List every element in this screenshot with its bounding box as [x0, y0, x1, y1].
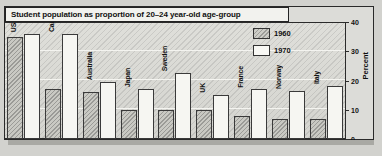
- y-tick-label: 40: [351, 19, 359, 26]
- y-tick-label: 10: [351, 106, 359, 113]
- bar-group: UK: [194, 22, 232, 139]
- legend-label-1970: 1970: [274, 46, 291, 55]
- bar: [272, 119, 288, 139]
- chart-figure: Student population as proportion of 20–2…: [0, 0, 382, 156]
- bar: [327, 86, 343, 139]
- y-axis: 010203040 Percent: [345, 22, 374, 140]
- bar: [213, 95, 229, 139]
- bar: [62, 34, 78, 139]
- chart-title-box: Student population as proportion of 20–2…: [5, 7, 289, 22]
- y-tick-label: 30: [351, 48, 359, 55]
- bar-category-label: Sweden: [161, 46, 168, 71]
- chart-title: Student population as proportion of 20–2…: [11, 10, 241, 19]
- bar-category-label: France: [237, 66, 244, 88]
- y-tick-mark: [345, 110, 349, 111]
- bar-group: USA: [5, 22, 43, 139]
- legend-swatch-1970-icon: [253, 45, 270, 56]
- bar: [138, 89, 154, 139]
- bar-group: Sweden: [156, 22, 194, 139]
- chart-legend: 1960 1970: [253, 27, 291, 61]
- bar-group: Japan: [118, 22, 156, 139]
- legend-label-1960: 1960: [274, 29, 291, 38]
- bar-category-label: Norway: [275, 65, 282, 89]
- bar-category-label: USA: [10, 22, 17, 32]
- figure-shadow: [8, 140, 374, 145]
- bar-category-label: UK: [199, 83, 206, 93]
- bar: [158, 110, 174, 139]
- bar: [24, 34, 40, 139]
- bar: [175, 73, 191, 139]
- bar-groups: USACanadaAustraliaJapanSwedenUKFranceNor…: [5, 22, 345, 139]
- bar: [289, 91, 305, 139]
- bar: [100, 82, 116, 139]
- y-tick-mark: [345, 81, 349, 82]
- legend-item-1970: 1970: [253, 44, 291, 57]
- bar: [196, 110, 212, 139]
- bar-group: Canada: [43, 22, 81, 139]
- plot-area: USACanadaAustraliaJapanSwedenUKFranceNor…: [5, 22, 345, 139]
- legend-swatch-1960-icon: [253, 28, 270, 39]
- bar: [7, 37, 23, 139]
- y-tick-label: 20: [351, 77, 359, 84]
- bar: [251, 89, 267, 139]
- bar: [310, 119, 326, 139]
- bar-category-label: Australia: [86, 52, 93, 80]
- bar-category-label: Italy: [313, 71, 320, 84]
- y-tick-mark: [345, 22, 349, 23]
- bar-category-label: Japan: [124, 68, 131, 87]
- bar-group: Australia: [81, 22, 119, 139]
- legend-item-1960: 1960: [253, 27, 291, 40]
- bar: [121, 110, 137, 139]
- bar-category-label: Canada: [48, 22, 55, 32]
- bar-group: Italy: [307, 22, 345, 139]
- y-tick-mark: [345, 51, 349, 52]
- bar: [234, 116, 250, 139]
- bar: [83, 92, 99, 139]
- y-axis-title: Percent: [361, 52, 370, 80]
- bar: [45, 89, 61, 139]
